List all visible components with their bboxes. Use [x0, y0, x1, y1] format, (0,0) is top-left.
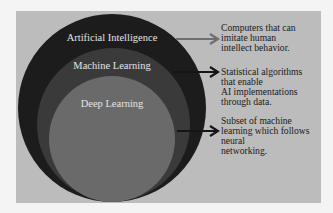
description-line: through data. — [221, 97, 302, 107]
ai-arrow-icon — [176, 33, 220, 45]
machine-learning-label: Machine Learning — [73, 61, 150, 72]
description-line: networking. — [221, 146, 309, 156]
machine-learning-description: Statistical algorithms that enable AI im… — [221, 67, 302, 107]
deep-learning-label: Deep Learning — [81, 99, 144, 110]
artificial-intelligence-label: Artificial Intelligence — [67, 33, 158, 44]
deep-learning-circle — [49, 76, 175, 202]
dl-arrow-icon — [177, 125, 220, 137]
deep-learning-description: Subset of machine learning which follows… — [221, 116, 309, 156]
artificial-intelligence-description: Computers that can imitate human intelle… — [221, 23, 296, 53]
ml-arrow-icon — [172, 66, 220, 78]
diagram-panel: Artificial Intelligence Machine Learning… — [16, 11, 321, 203]
description-line: intellect behavior. — [221, 43, 296, 53]
